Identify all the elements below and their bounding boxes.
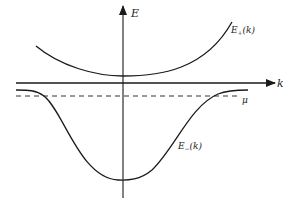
- e-axis-label: E: [130, 7, 139, 20]
- band-diagram: E k μ E+(k) E−(k): [0, 0, 293, 206]
- lower-band-label-arg: (k): [190, 141, 203, 151]
- upper-band-curve: [36, 22, 232, 76]
- lower-band-label: E−(k): [177, 141, 203, 152]
- k-axis-label: k: [277, 77, 284, 90]
- lower-band-curve: [16, 90, 248, 180]
- mu-label: μ: [242, 95, 248, 105]
- upper-band-label: E+(k): [230, 25, 256, 36]
- upper-band-label-arg: (k): [243, 25, 256, 35]
